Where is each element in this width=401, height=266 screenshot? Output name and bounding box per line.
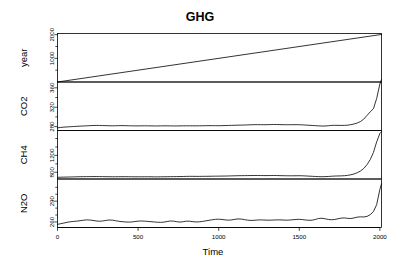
x-axis: 0500100015002000	[56, 228, 388, 241]
panel-frame-CH4	[58, 131, 382, 180]
panel-year: 10002000year	[18, 27, 382, 82]
x-tick-label-1500: 1500	[292, 233, 306, 240]
x-axis-title: Time	[203, 246, 224, 257]
y-tick-label-N2O-290: 290	[48, 195, 55, 206]
plot-canvas: GHG 10002000year280320360CO28001200CH426…	[0, 0, 401, 266]
series-line-N2O	[58, 184, 382, 225]
panel-label-N2O: N2O	[18, 193, 29, 213]
y-tick-label-CO2-360: 360	[48, 82, 55, 93]
x-tick-label-500: 500	[133, 233, 144, 240]
x-tick-label-1000: 1000	[212, 233, 226, 240]
x-tick-label-0: 0	[56, 233, 60, 240]
panel-N2O: 260290N2O	[18, 179, 382, 228]
series-line-CO2	[58, 80, 382, 128]
page-title: GHG	[186, 10, 214, 24]
panels-group: 10002000year280320360CO28001200CH4260290…	[18, 27, 382, 227]
y-tick-label-N2O-260: 260	[48, 216, 55, 227]
y-tick-label-year-2000: 2000	[49, 27, 56, 41]
panel-CO2: 280320360CO2	[18, 80, 382, 132]
panel-label-year: year	[18, 49, 29, 67]
panel-label-CH4: CH4	[18, 145, 29, 164]
y-tick-label-CO2-320: 320	[48, 102, 55, 113]
panel-frame-CO2	[58, 82, 382, 131]
panel-CH4: 8001200CH4	[18, 131, 382, 180]
y-tick-label-CH4-800: 800	[48, 167, 55, 178]
y-tick-label-CO2-280: 280	[49, 121, 56, 132]
x-tick-label-2000: 2000	[373, 233, 387, 240]
series-line-year	[58, 34, 382, 82]
y-tick-label-year-1000: 1000	[49, 51, 56, 65]
panel-label-CO2: CO2	[18, 96, 29, 116]
y-tick-label-CH4-1200: 1200	[48, 148, 55, 162]
series-line-CH4	[58, 132, 382, 178]
ghg-plot-figure: GHG 10002000year280320360CO28001200CH426…	[0, 0, 401, 266]
